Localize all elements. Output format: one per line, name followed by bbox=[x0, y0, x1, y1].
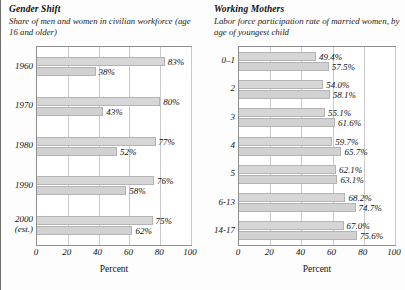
bar bbox=[37, 107, 103, 116]
bar bbox=[37, 216, 153, 225]
bar bbox=[239, 165, 336, 174]
category-label: 2000(est.) bbox=[3, 214, 33, 234]
category-label: 0–1 bbox=[208, 55, 235, 65]
bar-value-label: 75% bbox=[156, 217, 173, 226]
x-axis-right: 020406080100 bbox=[238, 247, 396, 261]
bar-value-label: 83% bbox=[168, 58, 185, 67]
bar-group: 62.1%63.1% bbox=[239, 165, 395, 184]
category-label: 1970 bbox=[3, 100, 33, 110]
bar-value-label: 57.5% bbox=[332, 63, 355, 72]
bar-value-label: 68.2% bbox=[348, 194, 371, 203]
bar-value-label: 63.1% bbox=[340, 176, 363, 185]
bar bbox=[239, 175, 337, 184]
figure-container: Gender Shift Share of men and women in c… bbox=[0, 0, 405, 290]
bar bbox=[239, 62, 329, 71]
bar-value-label: 74.7% bbox=[359, 204, 382, 213]
bar-value-label: 62.1% bbox=[339, 166, 362, 175]
category-label: 5 bbox=[208, 168, 235, 178]
bar-value-label: 61.6% bbox=[338, 119, 361, 128]
chart-header-left: Gender Shift Share of men and women in c… bbox=[3, 0, 199, 44]
x-tick-label: 20 bbox=[62, 247, 71, 258]
bar bbox=[37, 137, 156, 146]
plot-area-left: 83%38%80%43%77%52%76%58%75%62% bbox=[36, 46, 192, 246]
bar-group: 55.1%61.6% bbox=[239, 108, 395, 127]
x-tick-label: 40 bbox=[296, 247, 305, 258]
bar-value-label: 65.7% bbox=[344, 148, 367, 157]
bar-value-label: 77% bbox=[159, 138, 176, 147]
x-tick-label: 40 bbox=[93, 247, 102, 258]
bar bbox=[37, 67, 96, 76]
bar-value-label: 49.4% bbox=[319, 53, 342, 62]
bar-value-label: 62% bbox=[135, 227, 152, 236]
x-tick-label: 0 bbox=[34, 247, 39, 258]
category-label: 2 bbox=[208, 83, 235, 93]
x-tick-label: 100 bbox=[183, 247, 197, 258]
bar bbox=[37, 57, 165, 66]
bar bbox=[239, 203, 356, 212]
category-label: 4 bbox=[208, 140, 235, 150]
bar bbox=[239, 90, 330, 99]
bar-value-label: 80% bbox=[163, 98, 180, 107]
plot-area-right: 49.4%57.5%54.0%58.1%55.1%61.6%59.7%65.7%… bbox=[238, 46, 396, 246]
bar bbox=[239, 108, 325, 117]
bar bbox=[37, 186, 126, 195]
bar-value-label: 59.7% bbox=[335, 138, 358, 147]
bar-group: 83%38% bbox=[37, 57, 191, 76]
x-tick-label: 20 bbox=[265, 247, 274, 258]
bar bbox=[37, 97, 160, 106]
bar bbox=[239, 137, 332, 146]
chart-subtitle-right: Labor force participation rate of marrie… bbox=[214, 16, 400, 37]
bar-value-label: 54.0% bbox=[326, 81, 349, 90]
gridline bbox=[395, 47, 396, 245]
bar-value-label: 58.1% bbox=[333, 91, 356, 100]
bar bbox=[239, 118, 335, 127]
bar-groups-left: 83%38%80%43%77%52%76%58%75%62% bbox=[37, 47, 191, 245]
bar-group: 54.0%58.1% bbox=[239, 80, 395, 99]
x-tick-label: 80 bbox=[155, 247, 164, 258]
bar-group: 49.4%57.5% bbox=[239, 52, 395, 71]
bar bbox=[239, 80, 323, 89]
gridline bbox=[191, 47, 192, 245]
bar-group: 67.0%75.6% bbox=[239, 221, 395, 240]
bar-value-label: 76% bbox=[157, 177, 174, 186]
bar-value-label: 55.1% bbox=[328, 109, 351, 118]
bar bbox=[37, 147, 117, 156]
x-axis-title-right: Percent bbox=[238, 264, 396, 274]
bar bbox=[37, 176, 154, 185]
x-tick-label: 0 bbox=[236, 247, 241, 258]
bar-value-label: 67.0% bbox=[347, 222, 370, 231]
bar-value-label: 75.6% bbox=[360, 232, 383, 241]
x-tick-label: 80 bbox=[358, 247, 367, 258]
chart-title-left: Gender Shift bbox=[9, 3, 193, 15]
x-tick-label: 100 bbox=[387, 247, 401, 258]
x-axis-left: 020406080100 bbox=[36, 247, 192, 261]
chart-subtitle-left: Share of men and women in civilian workf… bbox=[9, 16, 195, 37]
chart-panel-working-mothers: Working Mothers Labor force participatio… bbox=[208, 0, 404, 290]
bar-group: 77%52% bbox=[37, 137, 191, 156]
category-label: 6-13 bbox=[208, 197, 235, 207]
bar bbox=[239, 52, 316, 61]
bar bbox=[239, 221, 344, 230]
bar bbox=[239, 193, 345, 202]
bar bbox=[239, 231, 357, 240]
chart-header-right: Working Mothers Labor force participatio… bbox=[208, 0, 404, 44]
bar-group: 68.2%74.7% bbox=[239, 193, 395, 212]
bar bbox=[37, 226, 132, 235]
category-label: 1980 bbox=[3, 140, 33, 150]
bar-groups-right: 49.4%57.5%54.0%58.1%55.1%61.6%59.7%65.7%… bbox=[239, 47, 395, 245]
chart-panel-gender-shift: Gender Shift Share of men and women in c… bbox=[3, 0, 199, 290]
bar-value-label: 58% bbox=[129, 187, 146, 196]
bar-group: 80%43% bbox=[37, 97, 191, 116]
x-tick-label: 60 bbox=[327, 247, 336, 258]
category-label: 3 bbox=[208, 112, 235, 122]
category-label: 1960 bbox=[3, 61, 33, 71]
bar bbox=[239, 147, 341, 156]
chart-title-right: Working Mothers bbox=[214, 3, 398, 15]
category-label: 14-17 bbox=[208, 225, 235, 235]
bar-value-label: 38% bbox=[99, 68, 116, 77]
bar-value-label: 43% bbox=[106, 108, 123, 117]
bar-group: 75%62% bbox=[37, 216, 191, 235]
category-label: 1990 bbox=[3, 180, 33, 190]
bar-group: 59.7%65.7% bbox=[239, 137, 395, 156]
x-tick-label: 60 bbox=[124, 247, 133, 258]
